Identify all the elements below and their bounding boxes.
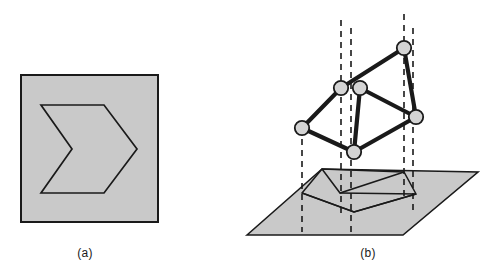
panel-b-caption: (b) [288, 246, 448, 260]
figure-container: (a) (b) [0, 0, 490, 278]
wireframe-edges [302, 48, 416, 152]
edge-top-right-to-right [404, 48, 416, 117]
figure-svg [0, 0, 490, 278]
edge-left-to-upper-left [302, 88, 341, 128]
edge-upper-mid-to-right [360, 88, 416, 117]
edge-bottom-to-left [302, 128, 354, 152]
panel-b-group [247, 14, 478, 235]
panel-a-caption: (a) [0, 246, 170, 260]
vertex-upper-mid [353, 81, 367, 95]
edge-right-to-bottom [354, 117, 416, 152]
vertex-bottom [347, 145, 361, 159]
edge-upper-mid-to-bottom [354, 88, 360, 152]
panel-a-group [21, 75, 158, 222]
vertex-upper-left [334, 81, 348, 95]
vertex-top-right [397, 41, 411, 55]
ground-plane [247, 169, 478, 235]
vertex-right [409, 110, 423, 124]
vertex-left [295, 121, 309, 135]
